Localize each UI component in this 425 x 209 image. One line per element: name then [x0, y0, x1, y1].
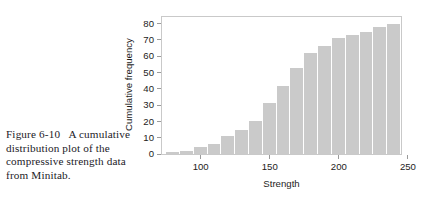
figure-caption: Figure 6-10 A cumulative distribution pl… [6, 128, 134, 182]
bar [208, 144, 222, 154]
x-axis-tick-mark [407, 155, 408, 159]
x-axis-tick-label: 250 [400, 162, 416, 172]
bar [180, 151, 194, 154]
bar [166, 152, 180, 154]
figure-caption-label: Figure 6-10 [6, 128, 60, 140]
bar [221, 136, 235, 154]
cumulative-distribution-chart: Cumulative frequency 01020304050607080 1… [126, 10, 418, 200]
y-axis-tick-label: 40 [143, 84, 157, 94]
x-axis-tick-label: 150 [262, 162, 278, 172]
bar [235, 130, 249, 154]
x-axis-tick: 100 [193, 155, 209, 172]
y-axis-tick-label: 30 [143, 100, 157, 110]
bar-series [162, 17, 401, 154]
bar [290, 68, 304, 154]
y-axis-tick-label: 70 [143, 35, 157, 45]
figure-container: Figure 6-10 A cumulative distribution pl… [0, 0, 425, 209]
bar [387, 24, 401, 154]
bar [373, 27, 387, 154]
x-axis-tick-mark [338, 155, 339, 159]
bar [346, 35, 360, 154]
x-axis-tick: 150 [262, 155, 278, 172]
y-axis-tick-label: 20 [143, 117, 157, 127]
x-axis-ticks: 100150200250 [161, 155, 402, 179]
y-axis-ticks: 01020304050607080 [126, 10, 161, 154]
y-axis-tick-label: 10 [143, 133, 157, 143]
y-axis-tick-label: 80 [143, 19, 157, 29]
bar [277, 86, 291, 155]
y-axis-tick-label: 0 [149, 149, 157, 159]
x-axis-tick: 200 [331, 155, 347, 172]
y-axis-tick-label: 50 [143, 68, 157, 78]
x-axis-title: Strength [161, 178, 402, 189]
plot-area [161, 16, 402, 155]
bar [332, 38, 346, 154]
bar [263, 103, 277, 154]
y-axis-tick-label: 60 [143, 51, 157, 61]
x-axis-tick-mark [269, 155, 270, 159]
bar [318, 46, 332, 154]
bar [360, 32, 374, 154]
bar [249, 121, 263, 154]
bar [304, 53, 318, 154]
x-axis-tick-label: 200 [331, 162, 347, 172]
x-axis-tick: 250 [400, 155, 416, 172]
bar [194, 147, 208, 154]
x-axis-tick-mark [200, 155, 201, 159]
x-axis-tick-label: 100 [193, 162, 209, 172]
